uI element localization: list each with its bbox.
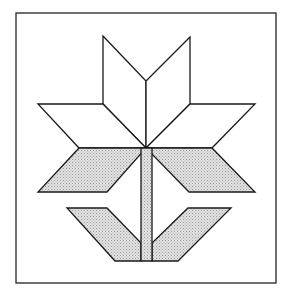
stem	[141, 148, 152, 261]
left-shaded-petal	[38, 148, 146, 192]
quilt-block-diagram	[0, 0, 290, 297]
left-leaf	[67, 208, 141, 261]
right-leaf	[152, 208, 231, 261]
right-shaded-petal	[146, 148, 255, 192]
